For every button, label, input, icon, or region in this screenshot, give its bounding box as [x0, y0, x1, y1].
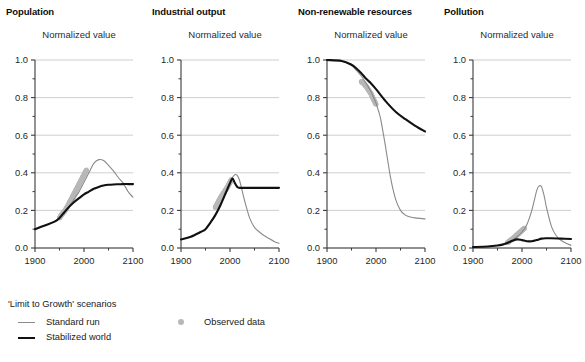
y-tick-label: 0.6: [15, 130, 28, 141]
y-tick-label: 0.6: [161, 130, 174, 141]
y-tick-label: 0.8: [307, 92, 320, 103]
y-tick-label: 1.0: [453, 54, 466, 65]
y-tick-label: 0.2: [15, 205, 28, 216]
panel-axis-subtitle: Normalized value: [292, 29, 438, 40]
plot-area-population: 0.00.20.40.60.81.0190020002100: [0, 42, 146, 282]
panel-population: Population Normalized value 0.00.20.40.6…: [0, 0, 146, 290]
y-tick-label: 0.8: [161, 92, 174, 103]
y-tick-label: 1.0: [15, 54, 28, 65]
x-tick-label: 2000: [220, 255, 241, 266]
y-tick-label: 0.0: [15, 242, 28, 253]
legend-item-label: Standard run: [46, 315, 100, 330]
panel-title: Non-renewable resources: [298, 6, 412, 17]
panel-axis-subtitle: Normalized value: [438, 29, 584, 40]
x-tick-label: 1900: [171, 255, 192, 266]
y-tick-label: 0.8: [15, 92, 28, 103]
y-tick-label: 0.2: [161, 205, 174, 216]
x-tick-label: 1900: [317, 255, 338, 266]
y-tick-label: 0.4: [161, 167, 174, 178]
series-stabilized-world: [181, 178, 279, 239]
panel-axis-subtitle: Normalized value: [0, 29, 146, 40]
y-tick-label: 0.6: [307, 130, 320, 141]
line-swatch-icon: [18, 337, 35, 339]
dot-marker-icon: [178, 319, 184, 325]
panel-title: Industrial output: [152, 6, 225, 17]
x-tick-label: 1900: [25, 255, 46, 266]
line-swatch-icon: [18, 322, 35, 323]
y-tick-label: 0.4: [307, 167, 320, 178]
x-tick-label: 2000: [74, 255, 95, 266]
legend: 'Limit to Growth' scenarios Standard run…: [0, 296, 585, 362]
legend-item-label: Stabilized world: [46, 330, 111, 345]
figure-limits-to-growth: Population Normalized value 0.00.20.40.6…: [0, 0, 585, 362]
series-stabilized-world: [327, 60, 425, 131]
panel-title: Pollution: [444, 6, 484, 17]
legend-title: 'Limit to Growth' scenarios: [8, 299, 116, 309]
y-tick-label: 0.2: [453, 205, 466, 216]
plot-area-industrial-output: 0.00.20.40.60.81.0190020002100: [146, 42, 292, 282]
y-tick-label: 0.8: [453, 92, 466, 103]
x-tick-label: 2000: [366, 255, 387, 266]
x-tick-label: 2100: [123, 255, 144, 266]
legend-item-label: Observed data: [204, 315, 265, 330]
y-tick-label: 0.2: [307, 205, 320, 216]
x-tick-label: 2100: [561, 255, 582, 266]
panel-pollution: Pollution Normalized value 0.00.20.40.60…: [438, 0, 584, 290]
panel-axis-subtitle: Normalized value: [146, 29, 292, 40]
observed-data-point: [84, 167, 89, 172]
plot-area-nonrenewable-resources: 0.00.20.40.60.81.0190020002100: [292, 42, 438, 282]
y-tick-label: 0.0: [307, 242, 320, 253]
x-tick-label: 2100: [415, 255, 436, 266]
x-tick-label: 2000: [512, 255, 533, 266]
plot-area-pollution: 0.00.20.40.60.81.0190020002100: [438, 42, 584, 282]
y-tick-label: 0.0: [453, 242, 466, 253]
series-standard-run: [327, 60, 425, 219]
x-tick-label: 2100: [269, 255, 290, 266]
y-tick-label: 0.4: [15, 167, 28, 178]
x-tick-label: 1900: [463, 255, 484, 266]
panel-title: Population: [6, 6, 54, 17]
y-tick-label: 1.0: [307, 54, 320, 65]
y-tick-label: 0.4: [453, 167, 466, 178]
panel-nonrenewable-resources: Non-renewable resources Normalized value…: [292, 0, 438, 290]
panel-grid: Population Normalized value 0.00.20.40.6…: [0, 0, 585, 290]
y-tick-label: 1.0: [161, 54, 174, 65]
y-tick-label: 0.6: [453, 130, 466, 141]
y-tick-label: 0.0: [161, 242, 174, 253]
series-stabilized-world: [473, 238, 571, 247]
panel-industrial-output: Industrial output Normalized value 0.00.…: [146, 0, 292, 290]
series-stabilized-world: [35, 184, 133, 229]
